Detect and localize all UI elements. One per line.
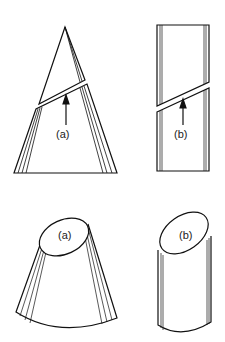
cone-section-figure	[14, 27, 117, 173]
conic-sections-diagram	[0, 0, 225, 342]
label-cone-section: (a)	[56, 128, 69, 140]
cylinder-truncated-figure	[152, 204, 216, 332]
cylinder-section-figure	[157, 25, 209, 171]
label-cone-frustum: (a)	[58, 229, 71, 241]
label-cylinder-truncated: (b)	[179, 229, 192, 241]
label-cylinder-section: (b)	[174, 128, 187, 140]
